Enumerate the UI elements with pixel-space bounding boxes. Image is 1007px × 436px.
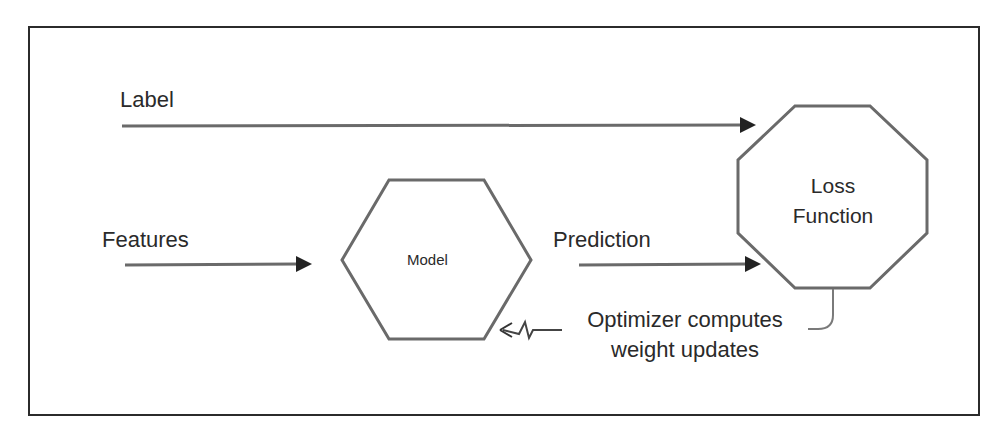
optimizer-line2: weight updates <box>560 335 810 365</box>
arrowhead-icon <box>296 256 312 272</box>
optimizer-line1: Optimizer computes <box>560 305 810 335</box>
features-input-text: Features <box>102 229 189 251</box>
arrowhead-icon <box>745 256 761 272</box>
loss-function-label: Loss Function <box>738 171 928 231</box>
prediction-arrow <box>579 256 761 272</box>
model-label: Model <box>407 252 448 267</box>
prediction-text: Prediction <box>553 229 651 251</box>
optimizer-note: Optimizer computes weight updates <box>560 305 810 365</box>
arrowhead-icon <box>740 117 756 133</box>
label-arrow <box>122 117 756 133</box>
label-input-text: Label <box>120 89 174 111</box>
features-arrow <box>125 256 312 272</box>
optimizer-connector <box>808 289 833 329</box>
weight-update-arrow <box>500 322 562 338</box>
loss-label-line2: Function <box>738 201 928 231</box>
loss-label-line1: Loss <box>738 171 928 201</box>
